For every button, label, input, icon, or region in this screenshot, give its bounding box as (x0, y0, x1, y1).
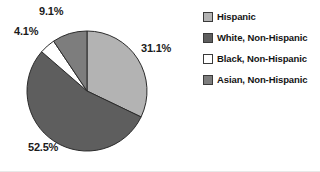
slice-label-white-non-hispanic: 52.5% (28, 141, 58, 153)
slice-label-hispanic: 31.1% (141, 42, 171, 54)
legend-swatch-icon (203, 12, 213, 22)
pie-plot-area: 31.1% 52.5% 4.1% 9.1% (0, 0, 196, 172)
legend-item-label: Black, Non-Hispanic (217, 53, 307, 64)
slice-label-black-non-hispanic: 4.1% (14, 25, 38, 37)
legend-swatch-icon (203, 54, 213, 64)
legend-item[interactable]: Black, Non-Hispanic (203, 48, 318, 69)
legend-item-label: Hispanic (217, 11, 256, 22)
legend-item-label: White, Non-Hispanic (217, 32, 307, 43)
legend-item[interactable]: Asian, Non-Hispanic (203, 69, 318, 90)
legend-item[interactable]: White, Non-Hispanic (203, 27, 318, 48)
chart-legend: HispanicWhite, Non-HispanicBlack, Non-Hi… (203, 6, 318, 90)
legend-swatch-icon (203, 75, 213, 85)
pie-slices (27, 31, 147, 151)
legend-item-label: Asian, Non-Hispanic (217, 74, 307, 85)
legend-item[interactable]: Hispanic (203, 6, 318, 27)
pie-chart-figure: 31.1% 52.5% 4.1% 9.1% HispanicWhite, Non… (0, 0, 320, 172)
legend-swatch-icon (203, 33, 213, 43)
slice-label-asian-non-hispanic: 9.1% (39, 5, 63, 17)
